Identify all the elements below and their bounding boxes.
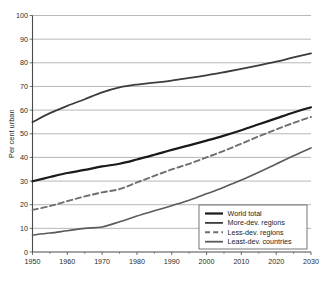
y-tick-label: 20 — [20, 200, 28, 209]
legend-label[interactable]: More-dev. regions — [228, 218, 286, 227]
y-tick-label: 0 — [24, 248, 28, 257]
gridlines — [33, 16, 312, 229]
x-tick-label: 1990 — [164, 257, 180, 266]
series-line-more-dev-regions — [33, 53, 312, 122]
line-chart: 0102030405060708090100 19501960197019801… — [0, 0, 327, 286]
x-tick-label: 2030 — [303, 257, 319, 266]
y-tick-label: 30 — [20, 177, 28, 186]
y-tick-label: 90 — [20, 35, 28, 44]
x-tick-label: 1970 — [94, 257, 110, 266]
y-axis-title-text: Per cent urban — [7, 110, 16, 158]
x-tick-label: 2010 — [233, 257, 249, 266]
x-tick-label: 2020 — [268, 257, 284, 266]
x-tick-label: 1980 — [129, 257, 145, 266]
series-line-less-dev-regions — [33, 117, 312, 210]
x-axis-tick-labels: 195019601970198019902000201020202030 — [25, 257, 320, 266]
y-tick-label: 40 — [20, 153, 28, 162]
y-axis-title: Per cent urban — [7, 110, 16, 158]
y-axis-tick-labels: 0102030405060708090100 — [16, 11, 28, 257]
legend-label[interactable]: Less-dev. regions — [228, 228, 285, 237]
legend-label[interactable]: Least-dev. countries — [228, 237, 293, 246]
y-tick-label: 80 — [20, 58, 28, 67]
y-tick-label: 10 — [20, 224, 28, 233]
chart-legend[interactable]: World totalMore-dev. regionsLess-dev. re… — [199, 205, 307, 249]
y-tick-label: 60 — [20, 106, 28, 115]
chart-figure: 0102030405060708090100 19501960197019801… — [0, 0, 327, 286]
x-tick-label: 1950 — [25, 257, 41, 266]
y-tick-label: 100 — [16, 11, 28, 20]
x-tick-label: 1960 — [59, 257, 75, 266]
y-tick-label: 70 — [20, 82, 28, 91]
legend-label[interactable]: World total — [228, 209, 263, 218]
y-tick-label: 50 — [20, 129, 28, 138]
x-tick-label: 2000 — [199, 257, 215, 266]
